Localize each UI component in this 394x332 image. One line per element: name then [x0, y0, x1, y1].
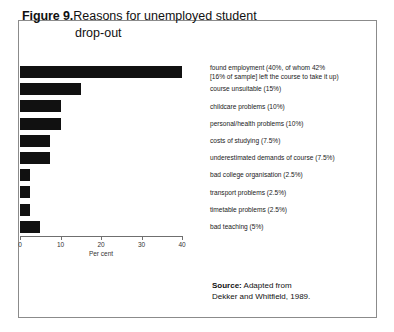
- bar-row: [20, 202, 190, 219]
- x-axis-tick-label: 30: [138, 241, 145, 248]
- bar: [20, 135, 50, 147]
- source-note: Source: Adapted from Dekker and Whitfiel…: [212, 280, 372, 302]
- bar-row: [20, 219, 190, 236]
- category-label: transport problems (2.5%): [210, 184, 382, 201]
- x-axis-tick-label: 0: [18, 241, 22, 248]
- bar-row: [20, 150, 190, 167]
- bar-row: [20, 64, 190, 81]
- x-axis-tick: [61, 236, 62, 240]
- bar-row: [20, 167, 190, 184]
- bar: [20, 186, 30, 198]
- bar: [20, 83, 81, 95]
- category-label-list: found employment (40%, of whom 42% [16% …: [210, 64, 382, 236]
- figure-title: Figure 9.Reasons for unemployed student …: [22, 8, 322, 42]
- bar: [20, 221, 40, 233]
- bar: [20, 152, 50, 164]
- x-axis-tick: [142, 236, 143, 240]
- bar-row: [20, 133, 190, 150]
- figure-title-line-2: drop-out: [75, 26, 122, 40]
- bar-row: [20, 116, 190, 133]
- bar-row: [20, 184, 190, 201]
- bar-row: [20, 81, 190, 98]
- category-label: underestimated demands of course (7.5%): [210, 150, 382, 167]
- bar-row: [20, 98, 190, 115]
- figure-title-line-1: Reasons for unemployed student: [73, 9, 256, 23]
- bar-chart-plot-area: [20, 64, 190, 236]
- source-text-line-2: Dekker and Whitfield, 1989.: [212, 292, 310, 301]
- bar: [20, 66, 182, 78]
- bar: [20, 169, 30, 181]
- category-label: bad college organisation (2.5%): [210, 167, 382, 184]
- x-axis-tick-label: 20: [97, 241, 104, 248]
- category-label: childcare problems (10%): [210, 98, 382, 115]
- category-label: bad teaching (5%): [210, 219, 382, 236]
- category-label: personal/health problems (10%): [210, 116, 382, 133]
- bar: [20, 204, 30, 216]
- category-label: found employment (40%, of whom 42% [16% …: [210, 64, 382, 81]
- bar: [20, 100, 61, 112]
- bar: [20, 118, 61, 130]
- x-axis-tick: [20, 236, 21, 240]
- figure-number: Figure 9.: [22, 9, 73, 23]
- x-axis-tick-label: 40: [178, 241, 185, 248]
- x-axis-tick: [101, 236, 102, 240]
- category-label: course unsuitable (15%): [210, 81, 382, 98]
- category-label: costs of studying (7.5%): [210, 133, 382, 150]
- category-label: timetable problems (2.5%): [210, 202, 382, 219]
- source-text: Adapted from: [244, 281, 292, 290]
- x-axis-label: Per cent: [20, 250, 182, 257]
- x-axis-tick: [182, 236, 183, 240]
- x-axis-tick-label: 10: [57, 241, 64, 248]
- x-axis: 010203040: [20, 236, 182, 237]
- source-label: Source:: [212, 281, 242, 290]
